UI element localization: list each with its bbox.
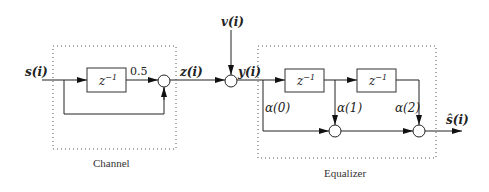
equalizer-sum-node-2 bbox=[413, 125, 425, 137]
input-label: s(i) bbox=[25, 65, 48, 79]
equalizer-caption: Equalizer bbox=[324, 167, 366, 179]
received-label: y(i) bbox=[237, 65, 261, 79]
tap-0-label: α(0) bbox=[265, 101, 290, 115]
tap-2-label: α(2) bbox=[395, 101, 420, 115]
channel-output-label: z(i) bbox=[179, 65, 203, 79]
channel-box bbox=[53, 46, 176, 149]
tap-1-label: α(1) bbox=[337, 101, 362, 115]
equalizer-sum-node-1 bbox=[329, 125, 341, 137]
channel-caption: Channel bbox=[93, 157, 130, 169]
output-label: ŝ(i) bbox=[446, 113, 469, 127]
noise-sum-node bbox=[225, 75, 237, 87]
channel-sum-node bbox=[158, 75, 170, 87]
channel-equalizer-diagram: s(i) z−1 0.5 z(i) v(i) y(i) z−1 z−1 α(0)… bbox=[0, 0, 489, 192]
noise-label: v(i) bbox=[221, 15, 244, 29]
gain-label: 0.5 bbox=[130, 65, 148, 78]
